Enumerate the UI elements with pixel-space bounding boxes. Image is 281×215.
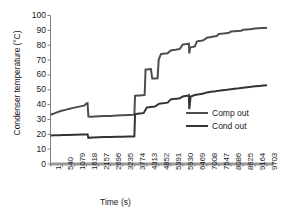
legend-label-cond-out: Cond out — [212, 121, 247, 131]
x-tick-label: 2696 — [114, 153, 123, 170]
x-tick-label: 2157 — [102, 153, 111, 170]
legend-swatch-comp-out — [186, 112, 208, 114]
legend-swatch-cond-out — [186, 125, 208, 127]
x-tick-label: 5930 — [186, 153, 195, 170]
x-tick-label: 9164 — [258, 153, 267, 170]
x-tick-label: 7008 — [210, 153, 219, 170]
x-tick-label: 4313 — [150, 153, 159, 170]
x-tick-label: 3235 — [126, 153, 135, 170]
x-tick-label: 1079 — [78, 153, 87, 170]
x-tick-label: 5391 — [174, 153, 183, 170]
x-tick-label: 7547 — [222, 153, 231, 170]
x-tick-label: 4852 — [162, 153, 171, 170]
x-tick-label: 8086 — [234, 153, 243, 170]
x-tick-label: 8625 — [246, 153, 255, 170]
x-tick-label: 9703 — [270, 153, 279, 170]
x-axis-title: Time (s) — [100, 197, 131, 207]
legend-item-cond-out: Cond out — [186, 119, 249, 132]
x-tick-label: 1618 — [90, 153, 99, 170]
x-tick-label: 6469 — [198, 153, 207, 170]
legend-label-comp-out: Comp out — [212, 108, 249, 118]
chart-legend: Comp out Cond out — [186, 106, 249, 132]
x-tick-label: 3774 — [138, 153, 147, 170]
legend-item-comp-out: Comp out — [186, 106, 249, 119]
x-tick-label: 1 — [54, 166, 63, 170]
x-tick-label: 540 — [66, 157, 75, 170]
chart-figure: Condenser temperature (°C) 1009080706050… — [0, 0, 281, 215]
